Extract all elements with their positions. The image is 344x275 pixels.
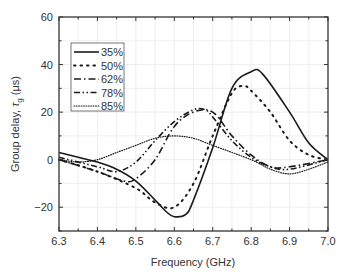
y-tick-label: 20 [41, 106, 53, 118]
x-tick-label: 6.9 [282, 235, 297, 247]
legend-label: 62% [101, 73, 123, 85]
y-tick-label: 60 [41, 11, 53, 23]
x-tick-label: 6.8 [243, 235, 258, 247]
legend-label: 50% [101, 60, 123, 72]
x-tick-label: 7.0 [320, 235, 335, 247]
x-axis-title: Frequency (GHz) [151, 256, 235, 268]
group-delay-chart: 6.36.46.56.66.76.86.97.0 −200204060 Freq… [0, 0, 344, 275]
x-tick-labels: 6.36.46.56.66.76.86.97.0 [51, 235, 335, 247]
x-tick-label: 6.4 [90, 235, 105, 247]
x-tick-label: 6.3 [51, 235, 66, 247]
y-tick-labels: −200204060 [34, 11, 53, 213]
x-tick-label: 6.5 [128, 235, 143, 247]
legend-label: 85% [101, 100, 123, 112]
legend-label: 78% [101, 87, 123, 99]
x-tick-label: 6.7 [205, 235, 220, 247]
y-tick-label: 40 [41, 59, 53, 71]
legend: 35%50%62%78%85% [71, 43, 124, 112]
y-tick-label: 0 [47, 154, 53, 166]
y-axis-title: Group delay, τg (μs) [9, 76, 24, 172]
x-tick-label: 6.6 [167, 235, 182, 247]
y-tick-label: −20 [34, 201, 53, 213]
legend-label: 35% [101, 46, 123, 58]
